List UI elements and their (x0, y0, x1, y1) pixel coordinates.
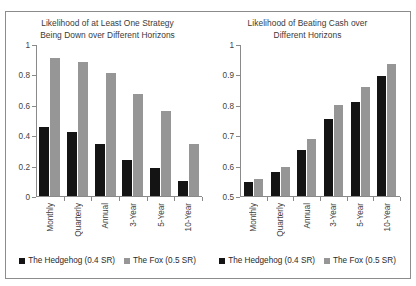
x-axis-category-label: 5-Year (356, 203, 365, 227)
legend-swatch-fox-icon (124, 258, 130, 264)
legend-swatch-hedgehog-icon (219, 258, 225, 264)
bar-hedgehog (324, 119, 333, 196)
x-axis-tick (119, 197, 120, 201)
chart-title-left-line1: Likelihood of at Least One Strategy (12, 18, 203, 30)
figure-frame: Likelihood of at Least One Strategy Bein… (5, 11, 411, 279)
bar-hedgehog (67, 132, 77, 196)
bar-hedgehog (150, 168, 160, 196)
y-axis-tick (236, 106, 240, 107)
bar-fox (307, 139, 316, 196)
x-axis-tick (293, 197, 294, 201)
bar-fox (361, 87, 370, 196)
y-axis-label: 1 (4, 41, 30, 50)
x-axis-tick (267, 197, 268, 201)
y-axis-tick (236, 75, 240, 76)
y-axis-tick (32, 75, 36, 76)
bar-hedgehog (95, 144, 105, 196)
chart-title-right: Likelihood of Beating Cash over Differen… (212, 18, 403, 41)
chart-panel-left: Likelihood of at Least One Strategy Bein… (6, 12, 209, 278)
bar-hedgehog (122, 160, 132, 196)
x-axis-category-label: 5-Year (157, 203, 166, 227)
y-axis-line-right (240, 45, 241, 197)
chart-title-left-line2: Being Down over Different Horizons (12, 30, 203, 42)
bar-hedgehog (377, 76, 386, 196)
chart-title-right-line2: Different Horizons (212, 30, 403, 42)
x-axis-category-label: 3-Year (129, 203, 138, 227)
bar-hedgehog (244, 182, 253, 196)
y-axis-label: 1 (208, 41, 234, 50)
legend-swatch-fox-icon (324, 258, 330, 264)
y-axis-label: 0.7 (208, 132, 234, 141)
plot-area-right: 0.50.60.70.80.91MonthlyQuarterlyAnnual3-… (240, 45, 400, 197)
x-axis-tick (147, 197, 148, 201)
y-axis-label: 0.5 (208, 193, 234, 202)
legend-entry-fox-left: The Fox (0.5 SR) (124, 256, 196, 265)
bar-fox (161, 111, 171, 196)
bar-fox (78, 62, 88, 196)
bar-fox (281, 167, 290, 196)
bar-fox (50, 58, 60, 196)
y-axis-tick (236, 167, 240, 168)
legend-label-hedgehog: The Hedgehog (0.4 SR) (228, 256, 315, 265)
y-axis-tick (236, 136, 240, 137)
y-axis-label: 0.6 (208, 162, 234, 171)
y-axis-tick (32, 106, 36, 107)
x-axis-tick (400, 197, 401, 201)
x-axis-category-label: Monthly (46, 203, 55, 232)
x-axis-category-label: 10-Year (184, 203, 193, 231)
x-axis-category-label: Quarterly (74, 203, 83, 237)
plot-area-left: 00.20.40.60.81MonthlyQuarterlyAnnual3-Ye… (36, 45, 202, 197)
bar-fox (387, 64, 396, 196)
x-axis-tick (202, 197, 203, 201)
bar-fox (133, 94, 143, 196)
x-axis-tick (320, 197, 321, 201)
chart-title-right-line1: Likelihood of Beating Cash over (212, 18, 403, 30)
x-axis-tick (91, 197, 92, 201)
y-axis-label: 0.9 (208, 71, 234, 80)
y-axis-label: 0 (4, 193, 30, 202)
x-axis-category-label: Monthly (249, 203, 258, 232)
bar-fox (334, 105, 343, 196)
x-axis-tick (64, 197, 65, 201)
y-axis-line-left (36, 45, 37, 197)
y-axis-label: 0.8 (4, 71, 30, 80)
y-axis-label: 0.6 (4, 101, 30, 110)
y-axis-tick (32, 45, 36, 46)
bar-hedgehog (297, 150, 306, 197)
y-axis-label: 0.2 (4, 162, 30, 171)
bar-hedgehog (178, 181, 188, 196)
legend-left: The Hedgehog (0.4 SR) The Fox (0.5 SR) (6, 256, 209, 265)
x-axis-category-label: Annual (101, 203, 110, 229)
x-axis-tick (174, 197, 175, 201)
y-axis-tick (32, 167, 36, 168)
y-axis-tick (236, 197, 240, 198)
bar-fox (189, 144, 199, 196)
legend-right: The Hedgehog (0.4 SR) The Fox (0.5 SR) (206, 256, 409, 265)
x-axis-category-label: 3-Year (329, 203, 338, 227)
legend-entry-hedgehog-left: The Hedgehog (0.4 SR) (19, 256, 115, 265)
x-axis-category-label: Quarterly (276, 203, 285, 237)
y-axis-label: 0.4 (4, 132, 30, 141)
bar-fox (254, 179, 263, 196)
bar-hedgehog (39, 127, 49, 196)
y-axis-tick (32, 136, 36, 137)
bar-fox (106, 73, 116, 196)
y-axis-tick (32, 197, 36, 198)
bar-hedgehog (351, 102, 360, 196)
x-axis-category-label: 10-Year (383, 203, 392, 231)
y-axis-tick (236, 45, 240, 46)
y-axis-label: 0.8 (208, 101, 234, 110)
legend-swatch-hedgehog-icon (19, 258, 25, 264)
chart-panel-right: Likelihood of Beating Cash over Differen… (206, 12, 409, 278)
x-axis-category-label: Annual (303, 203, 312, 229)
legend-label-fox: The Fox (0.5 SR) (133, 256, 196, 265)
legend-entry-fox-right: The Fox (0.5 SR) (324, 256, 396, 265)
chart-title-left: Likelihood of at Least One Strategy Bein… (12, 18, 203, 41)
legend-entry-hedgehog-right: The Hedgehog (0.4 SR) (219, 256, 315, 265)
x-axis-tick (347, 197, 348, 201)
x-axis-tick (373, 197, 374, 201)
legend-label-fox: The Fox (0.5 SR) (333, 256, 396, 265)
legend-label-hedgehog: The Hedgehog (0.4 SR) (28, 256, 115, 265)
bar-hedgehog (271, 172, 280, 196)
